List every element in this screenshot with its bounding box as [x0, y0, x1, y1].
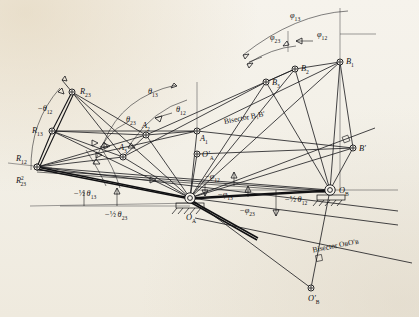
node-label-R12: R12: [15, 154, 27, 165]
diagram-canvas: R23R13R12R223A2A1A3O′AOAOBO′BB1B2B3B′φ13…: [0, 0, 419, 317]
joint-inner-circle: [122, 156, 124, 158]
datum-lines: [8, 8, 398, 206]
angle-arcs: [31, 11, 348, 188]
linkage-lines: [37, 62, 412, 288]
angle-label-mhalftheta13: −½ θ13: [74, 189, 96, 200]
angle-label-mphi23: −φ23: [240, 206, 255, 217]
joint-A2: [143, 132, 149, 138]
joint-inner-circle: [196, 153, 198, 155]
angle-label-mhalftheta12: −½ θ12: [285, 195, 307, 206]
joint-inner-circle: [352, 147, 354, 149]
node-label-OA: OA: [186, 213, 196, 224]
angle-label-phi13: φ13: [290, 11, 300, 22]
node-label-Bp: B′: [359, 144, 366, 153]
joint-R23: [69, 89, 75, 95]
joint-B2: [292, 66, 298, 72]
joint-inner-circle: [310, 287, 312, 289]
angle-label-mphi13: −φ13: [218, 190, 233, 201]
joint-inner-circle: [196, 130, 198, 132]
angle-label-phi12: φ12: [317, 30, 327, 41]
joint-inner-circle: [294, 68, 296, 70]
joint-OAp: [194, 151, 200, 157]
node-label-B1: B1: [346, 57, 354, 68]
text-bisector-ob: Bisector OʙO′ʙ: [312, 237, 360, 255]
node-label-A1: A1: [199, 134, 208, 145]
node-label-R13: R13: [31, 126, 43, 137]
joint-inner-circle: [145, 134, 147, 136]
kinematic-synthesis-figure: R23R13R12R223A2A1A3O′AOAOBO′BB1B2B3B′φ13…: [0, 0, 419, 317]
node-label-B2: B2: [301, 64, 309, 75]
angle-label-mtheta12: −θ12: [38, 104, 53, 115]
node-label-R23: R23: [79, 87, 91, 98]
node-label-A2: A2: [141, 121, 150, 132]
joint-OBp: [308, 285, 314, 291]
joint-B1: [337, 59, 343, 65]
joint-inner-circle: [51, 130, 53, 132]
node-label-OAp: O′A: [202, 150, 214, 161]
joint-inner-circle: [71, 91, 73, 93]
joint-A3: [120, 154, 126, 160]
joint-B3: [263, 79, 269, 85]
joint-R13: [49, 128, 55, 134]
joint-inner-circle: [328, 188, 333, 193]
joint-inner-circle: [339, 61, 341, 63]
joint-OA: [185, 193, 195, 203]
joint-inner-circle: [188, 196, 193, 201]
joint-inner-circle: [36, 166, 38, 168]
angle-label-mhalftheta23: −½ θ23: [105, 210, 127, 221]
joint-Bp: [350, 145, 356, 151]
node-label-OBp: O′B: [308, 294, 320, 305]
joint-R23b: [34, 164, 40, 170]
joint-OB: [325, 185, 335, 195]
joint-inner-circle: [265, 81, 267, 83]
node-label-R23b: R223: [15, 175, 26, 188]
angle-label-theta13: θ13: [148, 87, 158, 98]
angle-label-phi23: φ23: [270, 33, 280, 44]
angle-label-theta12: θ12: [176, 105, 186, 116]
node-label-B3: B3: [272, 78, 280, 89]
text-bisector-b1bp: Bisector B₁B′: [223, 109, 266, 126]
